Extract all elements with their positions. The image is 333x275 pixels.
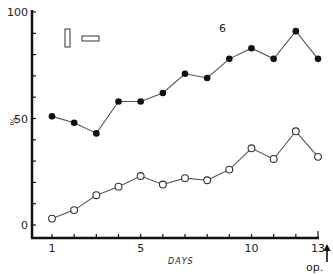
data-point: [71, 207, 78, 214]
x-tick-label: 10: [245, 242, 259, 255]
series-open-circles: [49, 128, 322, 222]
data-point: [137, 98, 144, 105]
data-point: [248, 145, 255, 152]
data-point: [204, 75, 211, 82]
data-point: [160, 90, 167, 97]
data-point: [293, 28, 300, 35]
series-filled-circles: [49, 28, 322, 137]
line-chart: 050100151013 6 % DAYS op.: [0, 0, 333, 275]
y-axis-label: %: [8, 117, 18, 126]
data-point: [49, 113, 56, 120]
data-point: [248, 45, 255, 52]
panel-annotation: 6: [219, 22, 226, 35]
data-point: [182, 175, 189, 182]
data-point: [226, 166, 233, 173]
data-point: [93, 192, 100, 199]
data-series: [49, 28, 322, 222]
y-tick-label: 100: [7, 6, 28, 19]
data-point: [270, 56, 277, 63]
data-point: [115, 183, 122, 190]
x-tick-label: 13: [311, 242, 325, 255]
legend-vertical-bar-symbol: [65, 29, 70, 47]
legend-horizontal-bar-symbol: [82, 36, 99, 41]
legend: [65, 29, 99, 47]
y-tick-label: 0: [21, 219, 28, 232]
x-tick-label: 5: [137, 242, 144, 255]
data-point: [49, 215, 56, 222]
data-point: [226, 56, 233, 63]
x-axis-label: DAYS: [168, 257, 194, 266]
data-point: [270, 156, 277, 163]
op-label: op.: [306, 261, 323, 274]
data-point: [315, 56, 322, 63]
data-point: [204, 177, 211, 184]
data-point: [115, 98, 122, 105]
data-point: [182, 70, 189, 77]
data-point: [137, 173, 144, 180]
data-point: [71, 119, 78, 126]
data-point: [93, 130, 100, 137]
data-point: [292, 128, 299, 135]
data-point: [159, 181, 166, 188]
data-point: [315, 153, 322, 160]
x-tick-label: 1: [49, 242, 56, 255]
